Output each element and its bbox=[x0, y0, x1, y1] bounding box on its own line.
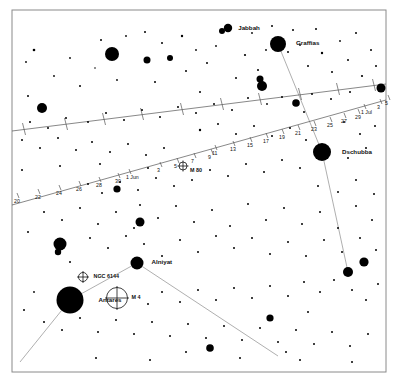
star bbox=[341, 251, 343, 253]
star bbox=[277, 341, 279, 343]
date-label: 3 bbox=[377, 104, 380, 110]
star bbox=[159, 116, 161, 118]
star bbox=[265, 219, 267, 221]
star bbox=[97, 223, 99, 225]
star bbox=[333, 279, 335, 281]
star bbox=[223, 325, 225, 327]
star bbox=[47, 127, 49, 129]
star bbox=[75, 149, 77, 151]
star bbox=[281, 159, 283, 161]
star bbox=[33, 49, 36, 52]
date-label: 7 bbox=[191, 158, 194, 164]
star bbox=[247, 97, 249, 99]
star bbox=[233, 287, 235, 289]
date-label: 15 bbox=[247, 142, 253, 148]
date-label: 21 bbox=[295, 130, 301, 136]
star bbox=[307, 65, 309, 67]
star bbox=[247, 203, 249, 205]
star bbox=[94, 67, 96, 69]
star bbox=[239, 357, 241, 359]
star bbox=[265, 49, 267, 51]
star bbox=[97, 331, 99, 333]
star bbox=[361, 75, 363, 77]
star bbox=[287, 295, 289, 297]
star bbox=[27, 231, 29, 233]
star bbox=[199, 129, 201, 131]
star bbox=[377, 283, 379, 285]
star bbox=[351, 289, 353, 291]
star bbox=[105, 47, 119, 61]
star bbox=[235, 133, 237, 135]
star bbox=[251, 237, 253, 239]
star bbox=[89, 237, 91, 239]
star bbox=[157, 217, 159, 219]
star bbox=[337, 227, 339, 229]
star bbox=[257, 69, 259, 71]
star bbox=[245, 163, 247, 165]
star bbox=[209, 169, 211, 171]
star bbox=[177, 106, 179, 108]
star bbox=[330, 98, 332, 100]
star bbox=[271, 135, 273, 137]
date-label: 1 Jul bbox=[361, 109, 372, 115]
star bbox=[179, 301, 181, 303]
star bbox=[55, 249, 61, 255]
sky-map-svg: NGC 6144M 4M 80 JabbahGraffiasDschubbaAl… bbox=[0, 0, 398, 383]
date-label: 11 bbox=[212, 150, 217, 156]
star bbox=[339, 40, 341, 42]
date-label: 19 bbox=[279, 134, 285, 140]
star bbox=[315, 28, 317, 30]
star bbox=[99, 163, 101, 165]
star bbox=[206, 62, 208, 64]
date-label: 26 bbox=[76, 186, 82, 192]
star bbox=[137, 189, 139, 191]
star bbox=[21, 169, 23, 171]
star bbox=[39, 147, 41, 149]
star bbox=[301, 223, 303, 225]
star bbox=[292, 99, 300, 107]
star bbox=[107, 247, 109, 249]
star bbox=[139, 204, 141, 206]
star bbox=[95, 357, 97, 359]
star bbox=[292, 29, 294, 31]
star bbox=[233, 247, 235, 249]
star bbox=[79, 317, 81, 319]
date-label: 25 bbox=[327, 122, 333, 128]
star bbox=[217, 123, 219, 125]
deep-sky-label: M 80 bbox=[190, 167, 202, 173]
star bbox=[155, 177, 157, 179]
star bbox=[251, 297, 253, 299]
star bbox=[251, 32, 253, 34]
date-label: 9 bbox=[208, 154, 211, 160]
star bbox=[305, 255, 307, 257]
star bbox=[149, 359, 151, 361]
date-label: 13 bbox=[230, 146, 236, 152]
star bbox=[266, 103, 268, 105]
star bbox=[199, 91, 201, 93]
star bbox=[287, 241, 289, 243]
star bbox=[59, 165, 61, 167]
star bbox=[195, 49, 197, 51]
star bbox=[161, 291, 163, 293]
star bbox=[313, 343, 315, 345]
star bbox=[211, 209, 213, 211]
star bbox=[54, 238, 67, 251]
date-label: 3 bbox=[157, 167, 160, 173]
star bbox=[169, 335, 171, 337]
star bbox=[144, 57, 151, 64]
star bbox=[123, 119, 125, 121]
star bbox=[53, 75, 55, 77]
star bbox=[133, 333, 135, 335]
star bbox=[23, 309, 25, 311]
star bbox=[205, 337, 207, 339]
star bbox=[299, 359, 301, 361]
star bbox=[69, 261, 71, 263]
star bbox=[271, 25, 273, 27]
star bbox=[61, 329, 63, 331]
star bbox=[215, 299, 217, 301]
star bbox=[349, 345, 351, 347]
star bbox=[311, 93, 313, 95]
star bbox=[151, 321, 153, 323]
star bbox=[305, 139, 307, 141]
star bbox=[147, 167, 149, 169]
